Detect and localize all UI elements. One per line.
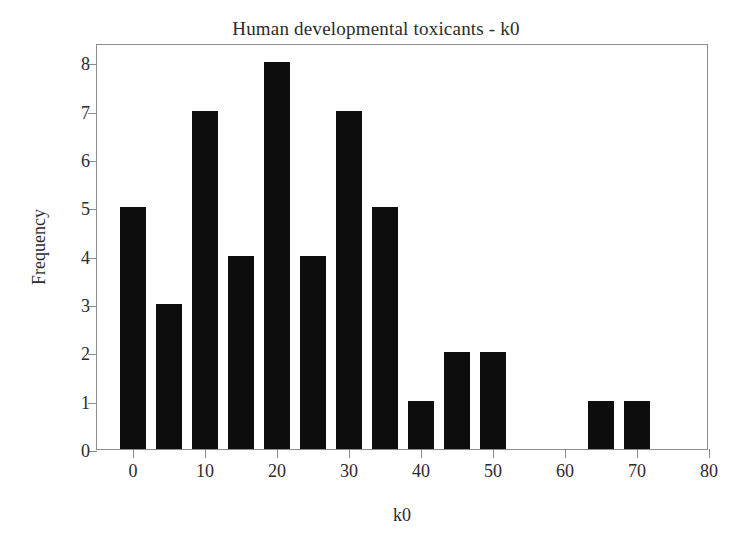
y-tick-group: 4: [97, 258, 98, 259]
x-tick-group: 10: [205, 449, 206, 450]
x-tick-label: 10: [196, 462, 214, 480]
x-tick-label: 40: [412, 462, 430, 480]
y-tick-label: 3: [81, 297, 90, 315]
x-tick-mark: [709, 449, 710, 458]
x-tick-label: 20: [268, 462, 286, 480]
plot-area: 012345678 01020304050607080: [96, 44, 708, 450]
y-tick-group: 2: [97, 354, 98, 355]
y-tick-label: 7: [81, 104, 90, 122]
histogram-bar: [444, 352, 470, 449]
y-tick-group: 3: [97, 306, 98, 307]
y-tick-label: 2: [81, 345, 90, 363]
x-tick-group: 70: [637, 449, 638, 450]
y-tick-group: 7: [97, 113, 98, 114]
y-tick-label: 8: [81, 55, 90, 73]
histogram-bar: [372, 207, 398, 449]
y-tick-group: 6: [97, 161, 98, 162]
x-tick-mark: [349, 449, 350, 458]
chart-title: Human developmental toxicants - k0: [0, 18, 752, 40]
histogram-bar: [624, 401, 650, 449]
x-tick-label: 30: [340, 462, 358, 480]
x-tick-label: 50: [484, 462, 502, 480]
x-tick-mark: [277, 449, 278, 458]
histogram-bar: [300, 256, 326, 449]
y-axis-title: Frequency: [28, 44, 50, 450]
x-axis-title: k0: [96, 505, 708, 526]
y-tick-label: 1: [81, 394, 90, 412]
histogram-bar: [588, 401, 614, 449]
x-tick-label: 60: [556, 462, 574, 480]
x-tick-group: 20: [277, 449, 278, 450]
y-tick-group: 5: [97, 209, 98, 210]
histogram-bar: [192, 111, 218, 449]
x-tick-group: 30: [349, 449, 350, 450]
x-tick-label: 70: [628, 462, 646, 480]
x-tick-mark: [421, 449, 422, 458]
x-tick-group: 60: [565, 449, 566, 450]
y-tick-label: 4: [81, 249, 90, 267]
y-tick-group: 1: [97, 403, 98, 404]
histogram-bar: [156, 304, 182, 449]
x-tick-label: 0: [129, 462, 138, 480]
x-tick-mark: [565, 449, 566, 458]
histogram-bar: [336, 111, 362, 449]
x-tick-mark: [637, 449, 638, 458]
x-tick-label: 80: [700, 462, 718, 480]
bars-layer: [97, 45, 707, 449]
y-tick-group: 8: [97, 64, 98, 65]
x-tick-mark: [205, 449, 206, 458]
histogram-bar: [120, 207, 146, 449]
x-tick-group: 50: [493, 449, 494, 450]
x-tick-mark: [133, 449, 134, 458]
histogram-bar: [264, 62, 290, 449]
x-tick-mark: [493, 449, 494, 458]
y-tick-label: 6: [81, 152, 90, 170]
histogram-bar: [228, 256, 254, 449]
x-tick-group: 40: [421, 449, 422, 450]
histogram-bar: [480, 352, 506, 449]
y-tick-label: 0: [81, 442, 90, 460]
histogram-figure: Human developmental toxicants - k0 01234…: [0, 0, 752, 560]
histogram-bar: [408, 401, 434, 449]
y-tick-group: 0: [97, 451, 98, 452]
y-tick-label: 5: [81, 200, 90, 218]
x-tick-group: 80: [709, 449, 710, 450]
x-tick-group: 0: [133, 449, 134, 450]
